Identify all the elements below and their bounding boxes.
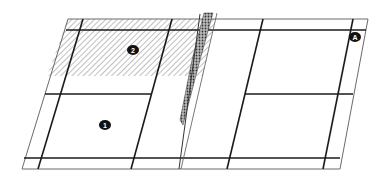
marker-2: 2 (127, 45, 139, 55)
court-diagram: 1 2 A (0, 0, 390, 184)
svg-text:2: 2 (131, 47, 135, 54)
marker-1: 1 (99, 120, 111, 130)
svg-text:1: 1 (103, 122, 107, 129)
marker-a: A (349, 32, 361, 42)
svg-text:A: A (352, 34, 357, 41)
diagram-canvas: 1 2 A (0, 0, 390, 184)
